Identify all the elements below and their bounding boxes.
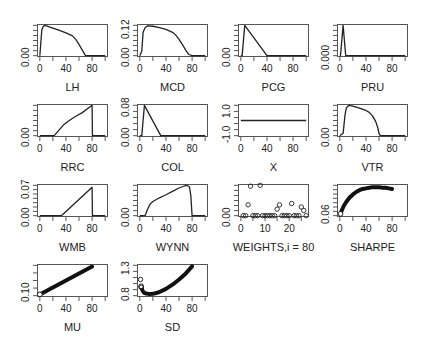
- x-tick-label: 0: [137, 303, 143, 314]
- plot-grid: 040800.00LH040800.000.12MCD040800.00PCG0…: [0, 0, 425, 350]
- y-tick-label: 0.8: [120, 287, 131, 301]
- data-point: [138, 277, 142, 281]
- x-tick-label: 40: [160, 303, 171, 314]
- x-tick-label: 80: [187, 303, 198, 314]
- plot-area: [0, 0, 425, 350]
- x-axis-label: SD: [117, 321, 228, 333]
- data-points-dense: [141, 266, 192, 294]
- y-tick-label: 1.3: [120, 261, 131, 275]
